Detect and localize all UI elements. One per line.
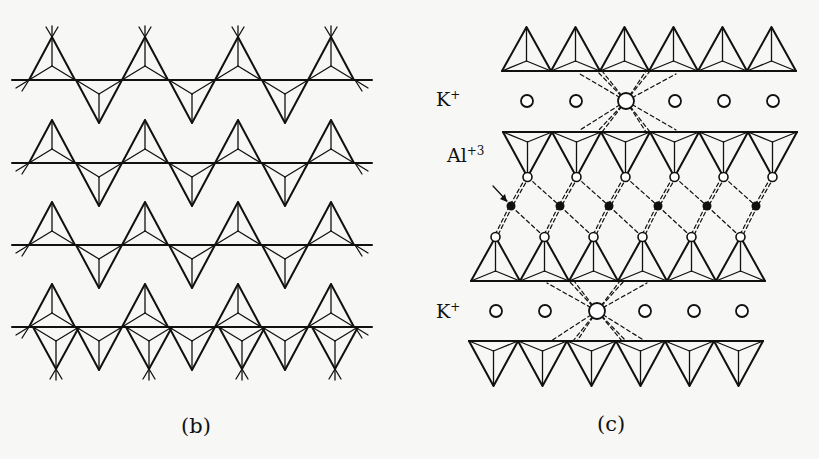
oxygen-apex-atom — [621, 173, 630, 182]
octahedral-bond — [742, 206, 758, 237]
octahedral-bond — [609, 206, 643, 237]
potassium-ion — [639, 305, 651, 317]
label-k-ion-top: K+ — [436, 88, 460, 110]
octahedral-bond — [497, 206, 513, 237]
oxygen-apex-atom — [768, 173, 777, 182]
aluminum-ion — [507, 202, 516, 211]
al-ion-charge: +3 — [467, 144, 485, 158]
oxygen-apex-atom — [719, 173, 728, 182]
k-ion-symbol: K — [436, 88, 450, 110]
potassium-ion — [521, 95, 533, 107]
panel-c-mica-layer-side-view — [0, 0, 819, 400]
octahedral-bond — [546, 206, 562, 237]
k-ion-charge: + — [450, 300, 460, 314]
octahedral-bond — [707, 206, 741, 237]
potassium-ion — [688, 305, 700, 317]
oxygen-apex-atom — [540, 233, 549, 242]
octahedral-bond — [577, 177, 610, 206]
mineral-structure-figure: (b) (c) K+ Al+3 K+ — [0, 0, 819, 459]
oxygen-apex-atom — [572, 173, 581, 182]
potassium-ion — [669, 95, 681, 107]
oxygen-apex-atom — [491, 233, 500, 242]
aluminum-ion — [752, 202, 761, 211]
potassium-ion — [736, 305, 748, 317]
octahedral-bond — [658, 206, 692, 237]
potassium-ion — [490, 305, 502, 317]
oxygen-apex-atom — [638, 233, 647, 242]
octahedral-bond — [693, 206, 709, 237]
oxygen-apex-atom — [687, 233, 696, 242]
k-ion-symbol: K — [436, 300, 450, 322]
al-ion-symbol: Al — [447, 144, 467, 166]
octahedral-bond — [644, 206, 660, 237]
k-ion-charge: + — [450, 88, 460, 102]
octahedral-bond — [626, 177, 659, 206]
oxygen-apex-atom — [670, 173, 679, 182]
label-al-ion: Al+3 — [447, 144, 485, 166]
potassium-ion — [767, 95, 779, 107]
label-k-ion-bottom: K+ — [436, 300, 460, 322]
caption-panel-b: (b) — [181, 414, 211, 438]
potassium-ion-coordinated — [589, 303, 605, 319]
octahedral-bond — [724, 177, 757, 206]
oxygen-apex-atom — [736, 233, 745, 242]
oxygen-apex-atom — [589, 233, 598, 242]
potassium-ion — [718, 95, 730, 107]
octahedral-bond — [560, 206, 594, 237]
aluminum-ion — [654, 202, 663, 211]
aluminum-ion — [605, 202, 614, 211]
octahedral-bond — [528, 177, 561, 206]
caption-panel-c: (c) — [597, 412, 625, 436]
potassium-ion — [570, 95, 582, 107]
octahedral-bond — [595, 206, 611, 237]
octahedral-bond — [675, 177, 708, 206]
aluminum-ion — [703, 202, 712, 211]
potassium-ion-coordinated — [618, 93, 634, 109]
potassium-ion — [539, 305, 551, 317]
octahedral-bond — [511, 206, 545, 237]
oxygen-apex-atom — [523, 173, 532, 182]
aluminum-ion — [556, 202, 565, 211]
